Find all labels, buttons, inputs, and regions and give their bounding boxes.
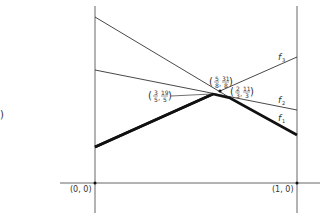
- intersection-point: [218, 89, 221, 92]
- svg-text:,: ,: [158, 94, 160, 102]
- point-label-3-5: ( 3 5 , 19 5 ): [148, 89, 172, 103]
- f3-label: f 3: [278, 52, 285, 63]
- left-edge-glyph: ): [0, 109, 4, 120]
- svg-text:8: 8: [224, 82, 228, 89]
- svg-text:5: 5: [163, 96, 167, 103]
- svg-text:): ): [250, 86, 254, 97]
- leader-line: [171, 94, 212, 96]
- svg-text:(: (: [230, 86, 234, 97]
- unit-label: (1, 0): [272, 185, 294, 194]
- svg-text:,: ,: [219, 80, 221, 88]
- f2-label: f 2: [278, 95, 285, 106]
- unit-point: [296, 182, 299, 185]
- f1-label: f 1: [278, 113, 285, 124]
- origin-point: [94, 182, 97, 185]
- point-label-2-3: ( 2 3 , 11 3 ): [230, 85, 254, 99]
- svg-text:3: 3: [245, 92, 249, 99]
- svg-text:(: (: [209, 76, 213, 87]
- origin-label: (0, 0): [70, 185, 92, 194]
- svg-text:): ): [168, 90, 172, 101]
- f2-line: [95, 70, 297, 110]
- svg-text:3: 3: [282, 57, 285, 63]
- svg-text:1: 1: [282, 118, 285, 124]
- svg-text:(: (: [148, 90, 152, 101]
- svg-text:2: 2: [282, 100, 285, 106]
- piecewise-linear-diagram: ( 3 5 , 19 5 ) ( 5 8 , 31 8 ) ( 2 3 , 11…: [0, 0, 322, 213]
- svg-text:,: ,: [240, 90, 242, 98]
